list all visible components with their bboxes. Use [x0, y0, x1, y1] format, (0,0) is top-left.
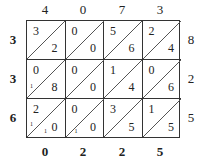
lattice-cell: 1 4 [104, 60, 143, 99]
carry-digit: 1 [30, 83, 33, 89]
tens-digit: 2 [149, 24, 155, 39]
tens-digit: 0 [149, 63, 155, 78]
lattice-cell: 3 2 [27, 21, 66, 60]
ones-digit: 2 [52, 41, 58, 56]
lattice-cell: 2 0 1 1 [27, 99, 66, 138]
carry-digit: 1 [44, 128, 47, 134]
tens-digit: 2 [33, 102, 39, 117]
tens-digit: 0 [33, 63, 39, 78]
lattice-cell: 1 5 [143, 99, 182, 138]
ones-digit: 4 [168, 41, 174, 56]
lattice-cell: 0 8 1 [27, 60, 66, 99]
tens-digit: 3 [33, 24, 39, 39]
lattice-grid: 3 2 0 0 5 6 2 4 0 8 1 0 0 1 4 0 6 2 [26, 20, 180, 138]
ones-digit: 0 [52, 120, 58, 135]
ones-digit: 4 [129, 80, 135, 95]
tens-digit: 0 [72, 63, 78, 78]
ones-digit: 5 [168, 120, 174, 135]
multiplier-digit: 3 [6, 71, 20, 87]
product-digit: 5 [141, 144, 179, 160]
tens-digit: 1 [149, 102, 155, 117]
product-digit: 8 [184, 32, 198, 48]
ones-digit: 6 [129, 41, 135, 56]
carry-digit: 1 [30, 121, 33, 127]
lattice-cell: 5 6 [104, 21, 143, 60]
multiplicand-digit: 3 [141, 2, 179, 18]
tens-digit: 0 [72, 24, 78, 39]
multiplier-digit: 3 [6, 32, 20, 48]
ones-digit: 8 [52, 80, 58, 95]
multiplicand-digit: 7 [103, 2, 141, 18]
multiplicand-digit: 4 [26, 2, 64, 18]
lattice-cell: 0 0 1 [66, 99, 105, 138]
product-digit: 5 [184, 110, 198, 126]
ones-digit: 6 [168, 80, 174, 95]
ones-digit: 0 [90, 120, 96, 135]
lattice-cell: 0 6 [143, 60, 182, 99]
tens-digit: 1 [110, 63, 116, 78]
ones-digit: 5 [129, 120, 135, 135]
multiplier-digit: 6 [6, 110, 20, 126]
lattice-cell: 3 5 [104, 99, 143, 138]
tens-digit: 3 [110, 102, 116, 117]
ones-digit: 0 [90, 80, 96, 95]
product-digit: 0 [26, 144, 64, 160]
tens-digit: 5 [110, 24, 116, 39]
product-digit: 2 [64, 144, 102, 160]
lattice-cell: 0 0 [66, 21, 105, 60]
lattice-cell: 0 0 [66, 60, 105, 99]
product-digit: 2 [103, 144, 141, 160]
lattice-cell: 2 4 [143, 21, 182, 60]
multiplicand-digit: 0 [64, 2, 102, 18]
product-digit: 2 [184, 71, 198, 87]
tens-digit: 0 [72, 102, 78, 117]
carry-digit: 1 [75, 128, 78, 134]
ones-digit: 0 [90, 41, 96, 56]
